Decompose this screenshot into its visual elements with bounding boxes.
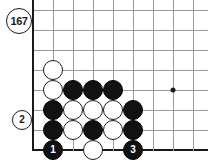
star-point [171,88,176,93]
black-stone[interactable] [43,100,63,120]
white-stone[interactable] [43,80,63,100]
black-stone[interactable] [83,120,103,140]
stone-move-number: 3 [130,145,136,155]
black-stone[interactable] [63,80,83,100]
white-stone[interactable] [63,120,83,140]
go-board: 132 [0,0,208,163]
white-stone[interactable] [103,120,123,140]
black-stone[interactable] [123,120,143,140]
black-stone[interactable] [43,120,63,140]
black-stone-move-1[interactable]: 1 [43,140,63,160]
board-left-edge [32,0,35,151]
stone-move-number: 1 [50,145,56,155]
black-stone[interactable] [103,80,123,100]
white-stone[interactable] [83,140,103,160]
black-stone-move-3[interactable]: 3 [123,140,143,160]
black-stone[interactable] [123,100,143,120]
grid-line-vertical [173,0,174,151]
white-stone[interactable] [83,100,103,120]
go-diagram-root: 167 132 [0,0,208,163]
stone-move-number: 2 [19,115,25,125]
grid-line-horizontal [33,30,208,31]
white-stone[interactable] [43,60,63,80]
black-stone[interactable] [83,80,103,100]
grid-line-vertical [193,0,194,151]
white-stone-move-2-offboard[interactable]: 2 [12,110,32,130]
white-stone[interactable] [63,100,83,120]
grid-line-horizontal [33,10,208,11]
white-stone[interactable] [103,100,123,120]
grid-line-horizontal [33,50,208,51]
grid-line-vertical [153,0,154,151]
